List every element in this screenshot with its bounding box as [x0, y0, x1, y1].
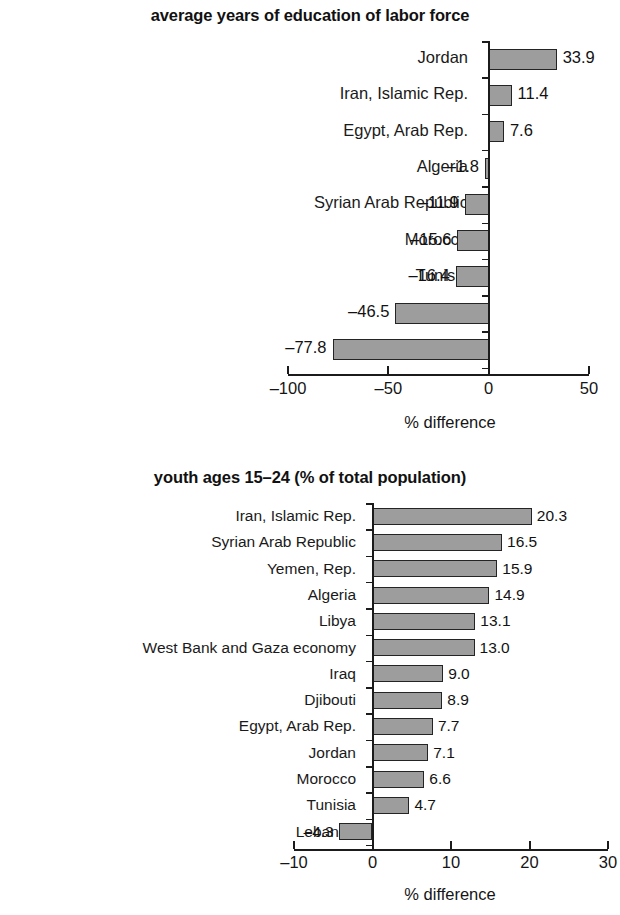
bar — [373, 744, 429, 761]
value-label: 16.5 — [507, 533, 537, 551]
chart-youth-population: youth ages 15–24 (% of total population)… — [0, 462, 620, 915]
x-axis-tick-label: –50 — [348, 379, 428, 398]
x-axis-line — [294, 849, 608, 851]
value-label: –4.3 — [0, 823, 334, 841]
bar — [489, 121, 504, 142]
x-axis-tick — [529, 841, 531, 849]
x-axis-tick — [387, 366, 389, 374]
bar — [489, 85, 512, 106]
x-axis-tick-label: 0 — [333, 853, 413, 872]
x-axis-tick — [488, 366, 490, 374]
category-label: Egypt, Arab Rep. — [343, 121, 468, 140]
zero-axis-line — [488, 41, 490, 368]
category-label: Tunisia — [307, 796, 356, 814]
bar — [373, 692, 443, 709]
bar — [373, 665, 444, 682]
value-label: –77.8 — [0, 338, 327, 357]
bar — [373, 613, 476, 630]
bar — [456, 266, 489, 287]
value-label: 8.9 — [447, 691, 469, 709]
x-axis-tick-label: 10 — [411, 853, 491, 872]
bar — [489, 49, 557, 70]
x-axis-tick-label: 0 — [449, 379, 529, 398]
bar — [373, 508, 532, 525]
category-label: Djibouti — [304, 691, 356, 709]
chart-education-labor-force: average years of education of labor forc… — [0, 0, 620, 445]
value-label: 15.9 — [502, 560, 532, 578]
x-axis-tick — [607, 841, 609, 849]
category-label: Iran, Islamic Rep. — [235, 507, 356, 525]
x-axis-tick — [293, 841, 295, 849]
chart-1-title: average years of education of labor forc… — [0, 6, 620, 25]
bar — [457, 230, 488, 251]
zero-axis-line — [372, 503, 374, 845]
value-label: –46.5 — [0, 302, 389, 321]
value-label: 13.1 — [480, 612, 510, 630]
bar — [373, 587, 490, 604]
category-label: Iraq — [329, 665, 356, 683]
category-label: Algeria — [308, 586, 356, 604]
x-axis-line — [288, 374, 589, 376]
x-axis-title: % difference — [350, 413, 550, 432]
value-label: 9.0 — [448, 665, 470, 683]
value-label: 13.0 — [480, 639, 510, 657]
bar — [395, 303, 488, 324]
bar — [465, 194, 489, 215]
x-axis-tick — [372, 841, 374, 849]
x-axis-tick-label: –100 — [248, 379, 328, 398]
value-label: 6.6 — [429, 770, 451, 788]
x-axis-tick — [287, 366, 289, 374]
value-label: –11.9 — [0, 193, 459, 212]
category-label: Jordan — [418, 48, 468, 67]
bar — [373, 534, 503, 551]
value-label: –16.4 — [0, 266, 450, 285]
value-label: 11.4 — [518, 84, 549, 103]
category-label: Egypt, Arab Rep. — [239, 717, 356, 735]
value-label: 4.7 — [414, 796, 436, 814]
value-label: 7.6 — [510, 121, 533, 140]
x-axis-tick — [588, 366, 590, 374]
bar — [373, 718, 433, 735]
bar — [373, 797, 410, 814]
x-axis-tick-label: –10 — [254, 853, 334, 872]
value-label: –15.6 — [0, 230, 451, 249]
bar — [339, 823, 373, 840]
chart-2-title: youth ages 15–24 (% of total population) — [0, 468, 620, 487]
bar — [373, 639, 475, 656]
value-label: 20.3 — [537, 507, 567, 525]
category-label: Morocco — [297, 770, 356, 788]
value-label: 33.9 — [563, 48, 595, 67]
bar — [373, 560, 498, 577]
value-label: 7.1 — [433, 744, 455, 762]
value-label: 14.9 — [494, 586, 524, 604]
category-label: West Bank and Gaza economy — [143, 639, 356, 657]
x-axis-tick — [450, 841, 452, 849]
value-label: –1.8 — [0, 157, 479, 176]
x-axis-title: % difference — [350, 885, 550, 904]
bar — [333, 339, 489, 360]
category-label: Iran, Islamic Rep. — [340, 84, 468, 103]
bar — [373, 771, 425, 788]
value-label: 7.7 — [438, 717, 460, 735]
category-label: Syrian Arab Republic — [211, 533, 356, 551]
x-axis-tick-label: 30 — [568, 853, 620, 872]
chart-2-plot-area: Iran, Islamic Rep.20.3Syrian Arab Republ… — [0, 487, 620, 915]
category-label: Yemen, Rep. — [267, 560, 356, 578]
x-axis-tick-label: 50 — [549, 379, 620, 398]
x-axis-tick-label: 20 — [490, 853, 570, 872]
category-label: Libya — [319, 612, 356, 630]
category-label: Jordan — [309, 744, 356, 762]
chart-1-plot-area: Jordan33.9Iran, Islamic Rep.11.4Egypt, A… — [0, 25, 620, 445]
